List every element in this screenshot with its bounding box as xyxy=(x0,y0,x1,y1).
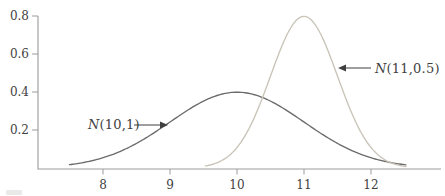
x-tick-label: 9 xyxy=(166,178,174,192)
density-curves xyxy=(70,16,406,166)
axis-tick-labels: 891011120.20.40.60.8 xyxy=(10,9,379,192)
y-tick-label: 0.6 xyxy=(10,47,29,61)
annotation-arrowhead xyxy=(338,65,346,72)
annotation-symbol: N xyxy=(375,61,387,76)
axis-ticks xyxy=(32,16,371,175)
x-tick-label: 10 xyxy=(229,178,244,192)
annotation-args: (11,0.5) xyxy=(387,61,440,76)
x-tick-label: 8 xyxy=(99,178,107,192)
x-tick-label: 12 xyxy=(363,178,378,192)
annotation-arrows xyxy=(134,65,371,129)
annotation-n-11-05: N(11,0.5) xyxy=(375,61,440,76)
annotation-arrowhead xyxy=(160,122,168,129)
annotation-args: (10,1) xyxy=(100,117,140,132)
y-tick-label: 0.2 xyxy=(10,123,29,137)
normal-distributions-figure: 891011120.20.40.60.8 N(10,1) N(11,0.5) xyxy=(0,0,445,196)
y-tick-label: 0.8 xyxy=(10,9,29,23)
annotation-symbol: N xyxy=(88,117,100,132)
y-tick-label: 0.4 xyxy=(10,85,29,99)
annotation-n-10-1: N(10,1) xyxy=(88,117,140,132)
x-tick-label: 11 xyxy=(296,178,311,192)
cropped-caption-fragment xyxy=(6,190,22,195)
curve-N(11,0.5) xyxy=(206,16,406,166)
plot-canvas: 891011120.20.40.60.8 xyxy=(0,0,445,196)
